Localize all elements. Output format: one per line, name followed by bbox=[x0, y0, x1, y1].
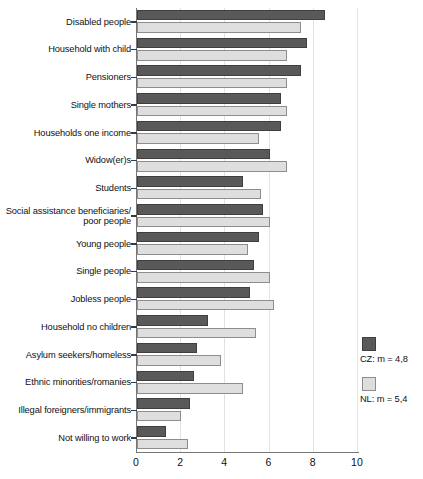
bar-nl bbox=[137, 355, 221, 366]
category-label: Students bbox=[0, 175, 131, 203]
category-label: Household with child bbox=[0, 36, 131, 64]
category-label: Single mothers bbox=[0, 91, 131, 119]
category-label: Household no children bbox=[0, 313, 131, 341]
category-label: Illegal foreigners/immigrants bbox=[0, 397, 131, 425]
bar-cz bbox=[137, 93, 281, 104]
category-label: Single people bbox=[0, 258, 131, 286]
bar-cz bbox=[137, 343, 197, 354]
bar-row: Social assistance beneficiaries/ poor pe… bbox=[0, 202, 423, 230]
bar-row: Household with child bbox=[0, 36, 423, 64]
category-label: Not willing to work bbox=[0, 424, 131, 452]
bar-nl bbox=[137, 217, 270, 228]
legend-label: CZ: m = 4,8 bbox=[360, 354, 423, 364]
bar-cz bbox=[137, 176, 243, 187]
bar-row: Students bbox=[0, 175, 423, 203]
bar-row: Jobless people bbox=[0, 286, 423, 314]
category-label: Jobless people bbox=[0, 286, 131, 314]
chart-legend: CZ: m = 4,8NL: m = 5,4 bbox=[360, 337, 423, 417]
bar-row: Not willing to work bbox=[0, 424, 423, 452]
category-label: Social assistance beneficiaries/ poor pe… bbox=[0, 202, 131, 230]
legend-item-cz: CZ: m = 4,8 bbox=[360, 337, 423, 364]
bar-nl bbox=[137, 272, 270, 283]
bar-cz bbox=[137, 204, 263, 215]
bar-row: Pensioners bbox=[0, 64, 423, 92]
x-tick-label: 4 bbox=[209, 456, 239, 468]
bar-cz bbox=[137, 38, 307, 49]
category-label: Asylum seekers/homeless bbox=[0, 341, 131, 369]
x-tick-label: 0 bbox=[121, 456, 151, 468]
bar-nl bbox=[137, 106, 287, 117]
bar-cz bbox=[137, 65, 301, 76]
horizontal-bar-chart: Disabled peopleHousehold with childPensi… bbox=[0, 0, 423, 479]
bar-row: Single people bbox=[0, 258, 423, 286]
bar-nl bbox=[137, 300, 274, 311]
bar-nl bbox=[137, 383, 243, 394]
x-tick-label: 10 bbox=[342, 456, 372, 468]
bar-nl bbox=[137, 328, 256, 339]
category-label: Young people bbox=[0, 230, 131, 258]
category-label: Ethnic minorities/romanies bbox=[0, 369, 131, 397]
legend-item-nl: NL: m = 5,4 bbox=[360, 377, 423, 404]
bar-cz bbox=[137, 149, 270, 160]
bar-row: Widow(er)s bbox=[0, 147, 423, 175]
category-label: Pensioners bbox=[0, 64, 131, 92]
bar-row: Disabled people bbox=[0, 8, 423, 36]
legend-swatch-nl bbox=[362, 377, 376, 391]
x-tick-label: 8 bbox=[298, 456, 328, 468]
bar-cz bbox=[137, 426, 166, 437]
bar-cz bbox=[137, 315, 208, 326]
bar-nl bbox=[137, 439, 188, 450]
bar-cz bbox=[137, 398, 190, 409]
bar-cz bbox=[137, 287, 250, 298]
bar-row: Households one income bbox=[0, 119, 423, 147]
category-label: Disabled people bbox=[0, 8, 131, 36]
bar-nl bbox=[137, 189, 261, 200]
x-axis-tick-labels: 0246810 bbox=[0, 456, 423, 476]
bar-nl bbox=[137, 78, 287, 89]
bar-cz bbox=[137, 10, 325, 21]
bar-nl bbox=[137, 50, 287, 61]
bar-cz bbox=[137, 371, 194, 382]
legend-label: NL: m = 5,4 bbox=[360, 394, 423, 404]
bar-row: Single mothers bbox=[0, 91, 423, 119]
bar-row: Young people bbox=[0, 230, 423, 258]
category-label: Widow(er)s bbox=[0, 147, 131, 175]
bar-nl bbox=[137, 244, 248, 255]
bar-nl bbox=[137, 133, 259, 144]
bar-cz bbox=[137, 260, 254, 271]
bar-cz bbox=[137, 121, 281, 132]
legend-swatch-cz bbox=[362, 337, 376, 351]
bar-nl bbox=[137, 22, 301, 33]
bar-cz bbox=[137, 232, 259, 243]
category-label: Households one income bbox=[0, 119, 131, 147]
bar-nl bbox=[137, 411, 181, 422]
x-tick-label: 2 bbox=[165, 456, 195, 468]
x-tick-label: 6 bbox=[254, 456, 284, 468]
bar-nl bbox=[137, 161, 287, 172]
